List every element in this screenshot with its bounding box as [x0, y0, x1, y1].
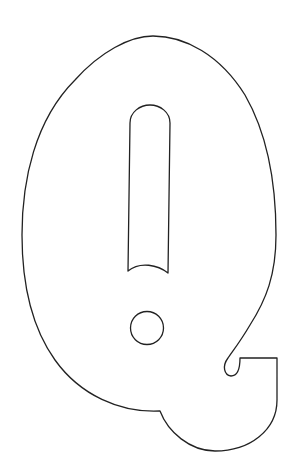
exclamation-bar-outline [128, 105, 170, 273]
exclamation-dot-outline [131, 312, 164, 345]
letter-q-outline [22, 36, 277, 451]
letter-q-drawing [0, 0, 302, 476]
coloring-page: Q [0, 0, 302, 476]
